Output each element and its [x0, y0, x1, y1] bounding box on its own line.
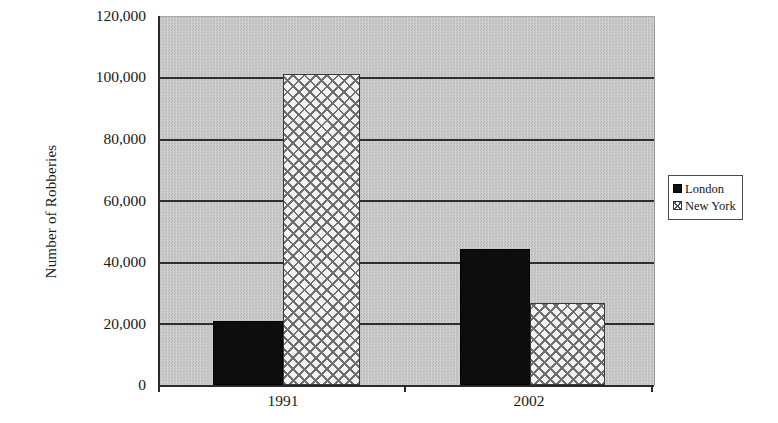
plot-area [158, 16, 654, 387]
bar-newyork-2002[interactable] [530, 303, 605, 385]
gridline-40000 [160, 262, 654, 264]
y-tick-label: 20,000 [103, 315, 146, 333]
bar-newyork-1991[interactable] [283, 74, 360, 385]
legend: London New York [668, 175, 743, 220]
y-tick-label: 100,000 [96, 68, 146, 86]
y-tick-label: 60,000 [103, 192, 146, 210]
gridline-100000 [160, 77, 654, 79]
x-axis-tick-middle [404, 385, 406, 392]
bar-chart-figure: Number of Robberies 120,000 100,000 80,0… [0, 0, 778, 423]
y-tick-label: 40,000 [103, 253, 146, 271]
x-axis-tick-left [158, 385, 160, 392]
x-axis-tick-right [651, 385, 653, 392]
legend-label: London [685, 182, 724, 196]
legend-item-newyork[interactable]: New York [673, 197, 736, 214]
bar-london-1991[interactable] [213, 321, 283, 385]
gridline-60000 [160, 200, 654, 202]
y-tick-label: 120,000 [96, 7, 146, 25]
y-axis-tick-labels: 120,000 100,000 80,000 60,000 40,000 20,… [40, 16, 152, 385]
legend-swatch-solid-square-icon [673, 184, 682, 193]
y-tick-label: 0 [138, 376, 146, 394]
x-axis-label-2002: 2002 [484, 392, 574, 410]
gridline-80000 [160, 139, 654, 141]
x-axis-label-1991: 1991 [238, 392, 328, 410]
y-tick-label: 80,000 [103, 130, 146, 148]
legend-item-london[interactable]: London [673, 180, 736, 197]
bar-london-2002[interactable] [460, 249, 530, 385]
legend-swatch-crosshatch-square-icon [673, 201, 682, 210]
legend-label: New York [685, 199, 736, 213]
